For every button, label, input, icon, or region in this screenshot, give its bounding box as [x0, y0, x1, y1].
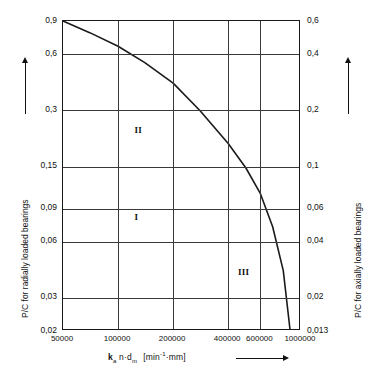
x-axis-tick-label: 50000 [51, 334, 73, 343]
y-axis-left-tick-label: 0,03 [40, 291, 57, 301]
gridline-vertical [260, 21, 261, 329]
x-axis-tick-label: 400000 [214, 334, 241, 343]
gridline-horizontal [63, 54, 299, 55]
y-axis-right-tick-label: 0,2 [307, 104, 319, 114]
y-axis-left-tick-label: 0,3 [45, 104, 57, 114]
y-axis-left-title: P/C for radially loaded bearings [20, 199, 30, 318]
gridline-horizontal [63, 167, 299, 168]
region-label-i: I [134, 212, 138, 222]
region-label-iii: III [238, 267, 249, 277]
x-axis-tick-label: 100000 [104, 334, 131, 343]
gridline-horizontal [63, 209, 299, 210]
y-axis-right-tick-label: 0,04 [307, 235, 324, 245]
unit-mm: ·mm [166, 352, 184, 362]
x-axis-symbol-m-sub: m [132, 358, 137, 364]
unit-bracket-close: ] [183, 352, 186, 362]
chart-figure: 0,90,60,30,150,090,060,030,02 0,60,40,20… [0, 0, 366, 377]
y-axis-left-tick-label: 0,15 [40, 160, 57, 170]
y-axis-right-tick-label: 0,013 [307, 325, 328, 335]
y-axis-right-tick-label: 0,06 [307, 202, 324, 212]
y-axis-left-tick-label: 0,06 [40, 235, 57, 245]
left-axis-arrow-icon [25, 62, 26, 114]
y-axis-right-tick-label: 0,6 [307, 15, 319, 25]
data-curve [63, 21, 290, 329]
gridline-horizontal [63, 298, 299, 299]
y-axis-left-tick-label: 0,02 [40, 325, 57, 335]
y-axis-left-tick-label: 0,09 [40, 202, 57, 212]
y-axis-right-tick-label: 0,4 [307, 48, 319, 58]
x-axis-ticks: 500001000002000004000006000001000000 [62, 334, 300, 348]
y-axis-right-tick-label: 0,1 [307, 160, 319, 170]
gridline-horizontal [63, 242, 299, 243]
x-axis-tick-label: 200000 [159, 334, 186, 343]
region-label-ii: II [134, 125, 142, 135]
gridline-vertical [173, 21, 174, 329]
y-axis-left-tick-label: 0,6 [45, 48, 57, 58]
gridline-horizontal [63, 110, 299, 111]
gridline-vertical [118, 21, 119, 329]
plot-area: IIIIII [62, 20, 300, 330]
x-axis-title: ka n·dm[min-1·mm] [108, 351, 186, 364]
curve-layer [63, 21, 301, 331]
y-axis-left-tick-label: 0,9 [45, 15, 57, 25]
unit-min: min [146, 352, 160, 362]
gridline-vertical [228, 21, 229, 329]
right-axis-arrow-icon [348, 62, 349, 114]
y-axis-right-tick-label: 0,02 [307, 291, 324, 301]
x-axis-tick-label: 1000000 [284, 334, 315, 343]
x-axis-tick-label: 600000 [246, 334, 273, 343]
y-axis-right-title: P/C for axially loaded bearings [353, 203, 363, 318]
x-axis-unit: [min-1·mm] [143, 352, 186, 362]
x-axis-symbol-nd: n·d [119, 352, 132, 362]
x-axis-arrow-icon [236, 358, 284, 359]
